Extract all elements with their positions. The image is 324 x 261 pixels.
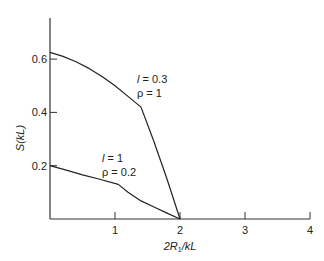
y-tick-label: 0.6 xyxy=(32,53,47,65)
curve1-annotation-l: l = 0.3 xyxy=(137,73,167,85)
curve2-annotation-rho: ρ = 0.2 xyxy=(102,166,136,178)
chart-canvas: 0.20.40.6 1234 l = 0.3 ρ = 1 l = 1 ρ = 0… xyxy=(0,0,324,261)
curve1-annotation-rho: ρ = 1 xyxy=(137,87,162,99)
y-axis-title: S(kL) xyxy=(14,125,26,152)
x-ticks: 1234 xyxy=(112,212,313,236)
curve2-annotation-l: l = 1 xyxy=(102,152,123,164)
y-tick-label: 0.2 xyxy=(32,160,47,172)
x-tick-label: 2 xyxy=(177,224,183,236)
x-tick-label: 3 xyxy=(242,224,248,236)
x-tick-label: 4 xyxy=(307,224,313,236)
x-tick-label: 1 xyxy=(112,224,118,236)
y-tick-label: 0.4 xyxy=(32,106,47,118)
y-ticks: 0.20.40.6 xyxy=(32,53,57,172)
x-axis-title: 2R1/kL xyxy=(163,240,197,253)
